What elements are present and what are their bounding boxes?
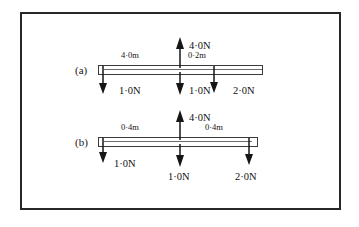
arrow-b-center-down	[176, 144, 184, 167]
arrow-a-center-down	[176, 72, 184, 95]
arrow-b-right-down	[245, 138, 253, 165]
force-arrows-layer	[22, 14, 343, 212]
arrow-a-left-down	[99, 66, 107, 94]
arrow-a-right-down	[210, 66, 218, 93]
arrow-b-left-down	[99, 138, 107, 163]
arrow-a-center-up	[176, 37, 184, 68]
arrow-b-center-up	[176, 110, 184, 140]
figure-frame: (a) 4·0m 0·2m 1·0N 4·0N 1·0N 2·0N (b) 0·…	[20, 12, 341, 210]
